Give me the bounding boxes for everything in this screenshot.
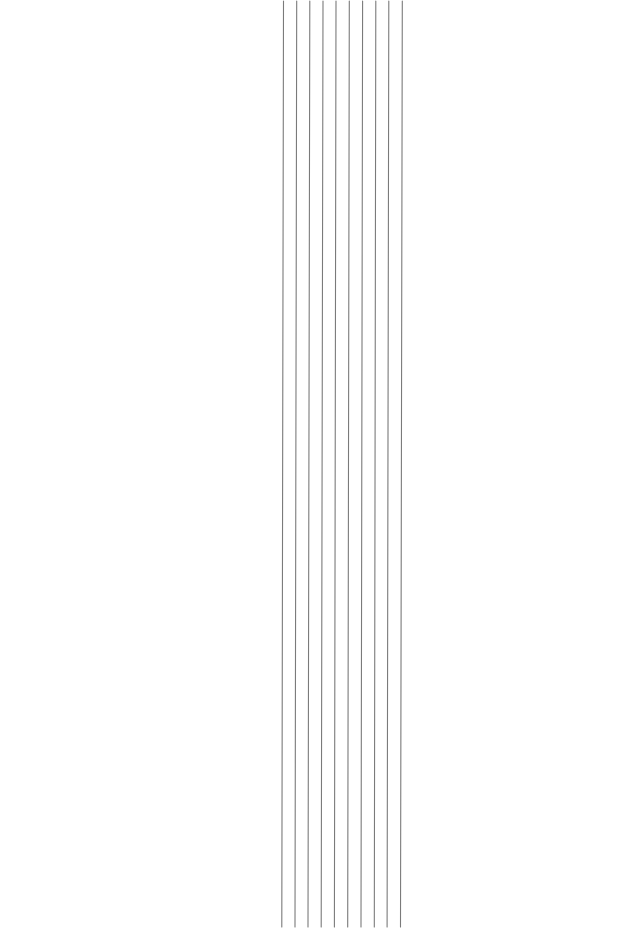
vertical-line-6	[348, 1, 350, 927]
ruled-lines-canvas	[0, 0, 643, 930]
vertical-line-9	[387, 1, 389, 927]
vertical-line-1	[282, 1, 284, 927]
vertical-line-3	[308, 1, 310, 927]
vertical-lines-group	[282, 1, 403, 927]
vertical-line-8	[374, 1, 376, 927]
vertical-line-4	[321, 1, 323, 927]
vertical-line-2	[295, 1, 297, 927]
vertical-line-10	[401, 1, 403, 927]
vertical-line-7	[361, 1, 363, 927]
vertical-line-5	[334, 1, 336, 927]
